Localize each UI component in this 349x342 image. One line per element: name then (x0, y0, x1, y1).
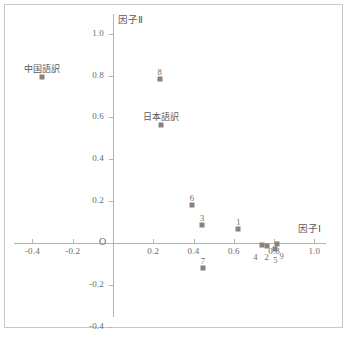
x-tick-label: 0.6 (221, 246, 247, 256)
x-axis-line (14, 243, 326, 244)
x-tick-label: 0.4 (181, 246, 207, 256)
data-point-marker[interactable] (158, 123, 163, 128)
x-tick-label: -0.4 (19, 246, 45, 256)
origin-label: O (99, 236, 106, 247)
y-tick-mark (109, 76, 113, 77)
y-tick-mark (109, 327, 113, 328)
data-point-name-label: 中国語訳 (24, 62, 60, 75)
y-tick-label: -0.4 (78, 321, 104, 331)
data-point-marker[interactable] (200, 222, 205, 227)
data-point-number-label: 6 (182, 193, 202, 203)
y-tick-label: 0.4 (78, 153, 104, 163)
y-tick-mark (109, 117, 113, 118)
y-tick-mark (109, 159, 113, 160)
data-point-marker[interactable] (189, 202, 194, 207)
data-point-number-label: 1 (228, 217, 248, 227)
x-tick-mark (32, 239, 33, 243)
data-point-marker[interactable] (236, 226, 241, 231)
data-point-marker[interactable] (273, 247, 278, 252)
data-point-name-label: 日本語訳 (143, 110, 179, 123)
x-tick-mark (73, 239, 74, 243)
data-point-marker[interactable] (264, 243, 269, 248)
x-axis-title: 因子Ⅰ (298, 221, 321, 235)
x-tick-label: 0.2 (140, 246, 166, 256)
y-tick-label: 0.6 (78, 111, 104, 121)
y-tick-label: -0.2 (78, 279, 104, 289)
x-tick-label: 1.0 (301, 246, 327, 256)
y-tick-label: 0.8 (78, 70, 104, 80)
data-point-number-label: 8 (150, 67, 170, 77)
data-point-number-label: 3 (192, 213, 212, 223)
data-point-marker[interactable] (200, 265, 205, 270)
x-tick-mark (153, 239, 154, 243)
y-axis-title: 因子Ⅱ (118, 12, 143, 26)
data-point-marker[interactable] (39, 74, 44, 79)
x-tick-mark (234, 239, 235, 243)
data-point-number-label: 5 (265, 255, 285, 265)
y-tick-label: 0.2 (78, 195, 104, 205)
y-tick-label: 1.0 (78, 28, 104, 38)
data-point-marker[interactable] (157, 77, 162, 82)
y-tick-mark (109, 34, 113, 35)
y-tick-mark (109, 201, 113, 202)
data-point-number-label: 7 (193, 256, 213, 266)
scatter-plot: O 因子Ⅱ 因子Ⅰ -0.4-0.20.20.40.60.81.0 -0.4-0… (0, 0, 349, 342)
x-tick-label: -0.2 (60, 246, 86, 256)
x-tick-mark (194, 239, 195, 243)
y-tick-mark (109, 285, 113, 286)
y-axis-line (113, 14, 114, 317)
x-tick-mark (314, 239, 315, 243)
